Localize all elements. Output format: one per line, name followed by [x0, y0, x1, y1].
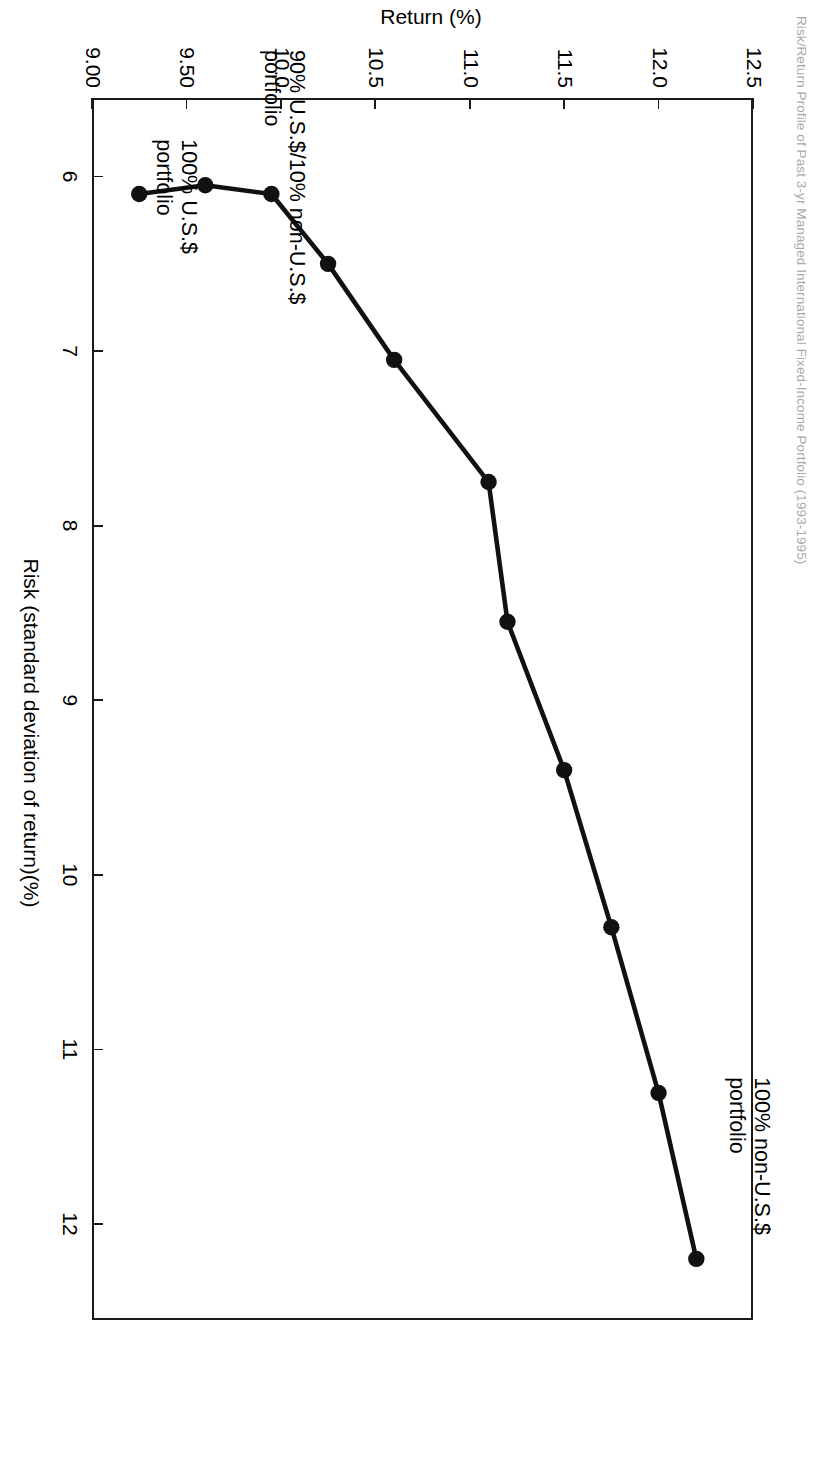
y-axis-tick — [374, 98, 376, 109]
x-axis-title: Risk (standard deviation of return)(%) — [19, 0, 43, 1466]
y-axis-tick-label: 12.0 — [648, 0, 672, 88]
x-axis-tick — [92, 1049, 103, 1051]
y-axis-tick-label: 9.50 — [175, 0, 199, 88]
y-axis-tick — [563, 98, 565, 109]
data-point-marker — [688, 1251, 704, 1267]
data-point-marker — [650, 1085, 666, 1101]
x-axis-tick-label: 10 — [58, 835, 82, 915]
x-axis-tick — [92, 874, 103, 876]
figure-title: Risk/Return Profile of Past 3-yr Managed… — [794, 16, 809, 564]
x-axis-tick-label: 11 — [58, 1009, 82, 1089]
data-point-marker — [603, 919, 619, 935]
x-axis-tick — [92, 1223, 103, 1225]
y-axis-tick — [658, 98, 660, 109]
x-axis-tick-label: 6 — [58, 137, 82, 217]
data-point-marker — [480, 474, 496, 490]
figure: Risk/Return Profile of Past 3-yr Managed… — [0, 0, 815, 1466]
x-axis-tick — [92, 176, 103, 178]
data-point-marker — [386, 352, 402, 368]
x-axis-tick — [92, 699, 103, 701]
x-axis-tick — [92, 350, 103, 352]
y-axis-tick-label: 12.5 — [742, 0, 766, 88]
point-annotation: 100% non-U.S.$ portfolio — [724, 1077, 774, 1235]
plot-area — [92, 98, 753, 1320]
point-annotation: 90% U.S.$/10% non-U.S.$ portfolio — [259, 50, 309, 305]
y-axis-title: Return (%) — [231, 5, 631, 29]
x-axis-tick-label: 8 — [58, 486, 82, 566]
data-point-marker — [499, 614, 515, 630]
data-point-marker — [131, 186, 147, 202]
data-point-marker — [556, 762, 572, 778]
frontier-line — [139, 185, 696, 1259]
y-axis-tick — [469, 98, 471, 109]
series-line-chart — [92, 98, 753, 1320]
rotated-figure-canvas: Risk/Return Profile of Past 3-yr Managed… — [0, 0, 815, 1466]
x-axis-tick — [92, 525, 103, 527]
x-axis-tick-label: 7 — [58, 311, 82, 391]
point-annotation: 100% U.S.$ portfolio — [151, 139, 201, 254]
y-axis-tick — [752, 98, 754, 109]
x-axis-tick-label: 9 — [58, 660, 82, 740]
y-axis-tick — [91, 98, 93, 109]
y-axis-tick-label: 9.00 — [81, 0, 105, 88]
x-axis-tick-label: 12 — [58, 1184, 82, 1264]
y-axis-tick — [186, 98, 188, 109]
data-point-marker — [320, 256, 336, 272]
